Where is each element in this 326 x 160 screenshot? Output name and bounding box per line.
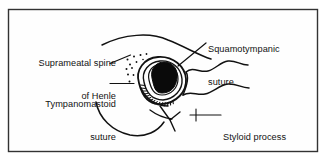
label-squamotympanic-line1: Squamotympanic (208, 44, 320, 55)
anatomical-figure: Suprameatal spine of Henle Tympanomastoi… (0, 0, 326, 160)
label-tympanomastoid-line2: suture (6, 132, 116, 143)
label-tympanomastoid-line1: Tympanomastoid (6, 99, 116, 110)
label-styloid-process-line1: Styloid process (223, 132, 319, 143)
label-suprameatal-spine-line1: Suprameatal spine (6, 58, 116, 69)
label-squamotympanic-line2: suture (208, 77, 320, 88)
label-tympanomastoid-suture: Tympanomastoid suture (6, 77, 116, 160)
label-styloid-process: Styloid process (223, 110, 319, 160)
label-squamotympanic-suture: Squamotympanic suture (208, 22, 320, 110)
external-acoustic-meatus-opening (152, 62, 178, 93)
